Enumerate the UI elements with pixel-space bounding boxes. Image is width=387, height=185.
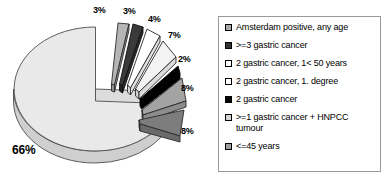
slice-label-2: 3% xyxy=(123,6,136,16)
legend-label-0: Amsterdam positive, any age xyxy=(236,22,348,33)
slice-label-6: 8% xyxy=(181,83,194,93)
legend: Amsterdam positive, any age >=3 gastric … xyxy=(218,16,381,172)
pie-chart: 3% 3% 4% 7% 2% 8% 8% 66% Amsterdam posit… xyxy=(0,0,387,185)
legend-swatch-le45-years xyxy=(225,143,232,150)
legend-item-3[interactable]: 2 gastric cancer, 1. degree xyxy=(225,76,376,87)
legend-item-5[interactable]: >=1 gastric cancer + HNPCC tumour xyxy=(225,112,376,134)
legend-item-4[interactable]: 2 gastric cancer xyxy=(225,94,376,105)
legend-swatch-amsterdam-positive xyxy=(225,24,232,31)
slice-label-5: 2% xyxy=(178,54,191,64)
slice-label-main: 66% xyxy=(12,143,35,157)
legend-label-3: 2 gastric cancer, 1. degree xyxy=(236,76,338,87)
legend-item-1[interactable]: >=3 gastric cancer xyxy=(225,40,376,51)
legend-label-2: 2 gastric cancer, 1< 50 years xyxy=(236,58,347,69)
legend-label-4: 2 gastric cancer xyxy=(236,94,297,105)
legend-swatch-2-gastric-cancer-first-degree xyxy=(225,78,232,85)
slice-label-3: 4% xyxy=(148,14,161,24)
legend-swatch-2-gastric-cancer xyxy=(225,96,232,103)
slice-label-4: 7% xyxy=(168,30,181,40)
legend-swatch-ge3-gastric-cancer xyxy=(225,42,232,49)
slice-label-7: 8% xyxy=(181,126,194,136)
legend-label-1: >=3 gastric cancer xyxy=(236,40,307,51)
legend-label-6: <=45 years xyxy=(236,141,280,152)
legend-item-2[interactable]: 2 gastric cancer, 1< 50 years xyxy=(225,58,376,69)
legend-item-6[interactable]: <=45 years xyxy=(225,141,376,152)
legend-item-0[interactable]: Amsterdam positive, any age xyxy=(225,22,376,33)
slice-label-1: 3% xyxy=(93,5,106,15)
legend-swatch-ge1-gastric-cancer-hnpcc xyxy=(225,114,232,121)
legend-swatch-2-gastric-cancer-under-50 xyxy=(225,60,232,67)
legend-label-5: >=1 gastric cancer + HNPCC xyxy=(236,112,348,122)
legend-label-5-line2: tumour xyxy=(236,123,348,134)
